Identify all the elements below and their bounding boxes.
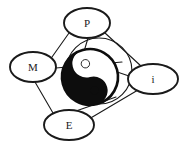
node-m[interactable]: M [10,52,56,82]
node-e[interactable]: E [44,110,94,140]
edge-e-m [35,82,53,113]
edge-m-p [52,33,69,57]
node-m-label: M [28,61,38,73]
diagram-canvas: P M i E [0,0,185,146]
node-e-label: E [66,119,73,131]
node-i[interactable]: i [128,64,178,94]
node-i-label: i [151,73,154,85]
diagram-svg: P M i E [0,0,185,146]
node-p[interactable]: P [64,8,110,38]
node-p-label: P [84,17,90,29]
